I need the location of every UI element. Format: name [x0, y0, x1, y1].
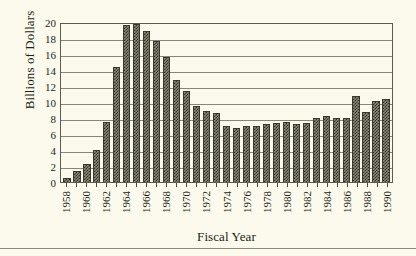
x-axis-tick-label: 1986 — [341, 191, 352, 213]
x-axis-ticks: 1958196019621964196619681970197219741976… — [60, 183, 393, 229]
bar-slot — [291, 24, 301, 182]
x-axis-slot: 1976 — [242, 183, 252, 229]
bar-slot — [92, 24, 102, 182]
x-axis-slot: 1990 — [382, 183, 392, 229]
bar-slot — [202, 24, 212, 182]
bar-slot — [351, 24, 361, 182]
x-axis-slot: 1972 — [201, 183, 211, 229]
bar-slot — [321, 24, 331, 182]
bar-slot — [162, 24, 172, 182]
bar-slot — [271, 24, 281, 182]
bar-slot — [182, 24, 192, 182]
bar — [83, 164, 90, 182]
bar-slot — [341, 24, 351, 182]
x-axis-tick-mark — [186, 183, 187, 187]
bar — [123, 25, 130, 182]
bar-slot — [82, 24, 92, 182]
x-axis-tick-mark — [196, 183, 197, 187]
y-axis-tick-labels: 20181614121086420 — [34, 23, 56, 183]
x-axis-tick-label: 1968 — [161, 191, 172, 213]
bar — [273, 123, 280, 182]
x-axis-tick-label: 1960 — [81, 191, 92, 213]
x-axis-tick-mark — [86, 183, 87, 187]
x-axis-tick-mark — [176, 183, 177, 187]
bar — [63, 178, 70, 182]
bar — [313, 118, 320, 182]
x-axis-slot: 1988 — [362, 183, 372, 229]
bar — [193, 106, 200, 182]
bar-slot — [371, 24, 381, 182]
y-axis-tick-label: 0 — [51, 178, 57, 189]
x-axis-tick-mark — [206, 183, 207, 187]
x-axis-tick-mark — [317, 183, 318, 187]
bar-slot — [132, 24, 142, 182]
bar — [352, 96, 359, 182]
x-axis-tick-mark — [76, 183, 77, 187]
x-axis-tick-mark — [66, 183, 67, 187]
bar — [233, 128, 240, 182]
x-axis-slot: 1966 — [141, 183, 151, 229]
bar-slot — [212, 24, 222, 182]
bar-slot — [192, 24, 202, 182]
bar — [73, 171, 80, 182]
bar-series — [61, 24, 392, 182]
bar — [213, 113, 220, 182]
bar — [362, 112, 369, 182]
bar — [293, 124, 300, 182]
x-axis-slot: 1962 — [101, 183, 111, 229]
x-axis-tick-mark — [277, 183, 278, 187]
x-axis-tick-mark — [227, 183, 228, 187]
y-axis-tick-label: 20 — [45, 18, 56, 29]
x-axis-tick-mark — [237, 183, 238, 187]
x-axis-tick-mark — [387, 183, 388, 187]
x-axis-tick-label: 1966 — [141, 191, 152, 213]
bar — [163, 57, 170, 182]
y-axis-tick-label: 10 — [45, 98, 56, 109]
bar-slot — [361, 24, 371, 182]
bar-slot — [62, 24, 72, 182]
bar — [223, 126, 230, 182]
x-axis-slot: 1970 — [181, 183, 191, 229]
bar — [183, 91, 190, 182]
x-axis-tick-mark — [247, 183, 248, 187]
x-axis-tick-label: 1964 — [121, 191, 132, 213]
x-axis-tick-label: 1962 — [101, 191, 112, 213]
y-axis-tick-label: 8 — [51, 114, 57, 125]
bar — [113, 67, 120, 182]
bar-slot — [142, 24, 152, 182]
x-axis-tick-mark — [136, 183, 137, 187]
bar — [323, 116, 330, 182]
y-axis-tick-label: 18 — [45, 34, 56, 45]
x-axis-tick-label: 1970 — [181, 191, 192, 213]
x-axis-tick-label: 1984 — [321, 191, 332, 213]
x-axis-slot: 1984 — [322, 183, 332, 229]
bar-slot — [281, 24, 291, 182]
bar-slot — [222, 24, 232, 182]
x-axis-title: Fiscal Year — [60, 229, 393, 245]
bar — [243, 126, 250, 182]
bar — [343, 118, 350, 182]
x-axis-tick-mark — [267, 183, 268, 187]
x-axis-tick-label: 1972 — [201, 191, 212, 213]
x-axis-tick-mark — [377, 183, 378, 187]
bar — [303, 123, 310, 182]
bar-chart-figure: Billions of Dollars 20181614121086420 19… — [0, 0, 416, 256]
x-axis-tick-mark — [106, 183, 107, 187]
x-axis-tick-mark — [126, 183, 127, 187]
x-axis-tick-mark — [166, 183, 167, 187]
x-axis-slot: 1986 — [342, 183, 352, 229]
bar — [263, 124, 270, 182]
x-axis-tick-label: 1980 — [281, 191, 292, 213]
plot-area — [60, 23, 393, 183]
bar — [103, 122, 110, 182]
bar — [133, 24, 140, 182]
bar-slot — [112, 24, 122, 182]
bar — [283, 122, 290, 182]
x-axis-slot: 1980 — [282, 183, 292, 229]
bar-slot — [301, 24, 311, 182]
x-axis-tick-label: 1978 — [261, 191, 272, 213]
bar-slot — [122, 24, 132, 182]
bar-slot — [72, 24, 82, 182]
bar — [143, 31, 150, 182]
y-axis-tick-label: 16 — [45, 50, 56, 61]
